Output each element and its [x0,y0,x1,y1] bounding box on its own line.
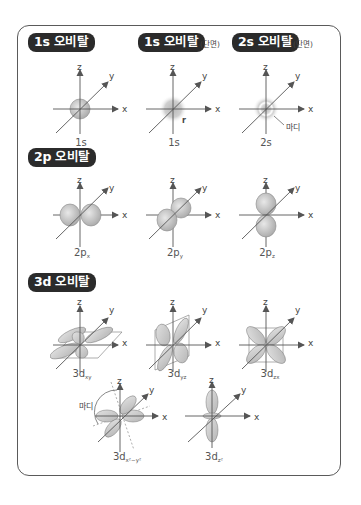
orbital-label-2pz: 2pz [259,247,275,259]
node-label: 마디 [79,400,93,411]
axis-label-x: x [308,104,313,114]
axis-label-y: y [149,385,154,395]
axes-3d-icon [90,378,170,458]
axis-label-y: y [202,305,207,315]
orbital-2pz-diagram [236,175,316,255]
axis-label-z: z [117,376,122,386]
section-tag-2s-cross: 2s 오비탈 [232,33,299,52]
axes-3d-icon [50,62,130,142]
axis-label-z: z [170,297,175,307]
axis-label-y: y [241,385,246,395]
section-tag-3d: 3d 오비탈 [28,273,96,292]
axis-label-z: z [209,375,214,385]
orbital-2px-diagram [50,175,130,255]
axis-label-y: y [202,71,207,81]
orbital-label-2px: 2px [74,247,90,259]
axis-label-z: z [170,62,175,72]
axis-label-y: y [202,183,207,193]
orbital-label-3dx2y2: 3dx²−y² [113,451,141,463]
orbital-2py-diagram [143,175,223,255]
axis-label-x: x [162,412,167,422]
orbital-label-3dz2: 3dz² [205,451,223,463]
orbital-2s-cross-diagram [236,62,316,142]
cross-section-note-2s: (단면) [293,38,313,49]
axis-label-y: y [109,305,114,315]
axis-label-z: z [77,175,82,185]
axes-3d-icon [236,298,316,378]
axis-label-x: x [122,210,127,220]
orbital-1s-diagram [50,62,130,142]
orbital-label-1s-cross: 1s [168,137,180,148]
orbital-3dxy-diagram [50,298,130,378]
axis-label-z: z [263,62,268,72]
axes-3d-icon [236,62,316,142]
axes-3d-icon [50,175,130,255]
axis-label-z: z [263,175,268,185]
cross-section-note-1s: (단면) [200,38,220,49]
orbital-3dx2y2-diagram [90,378,170,458]
orbital-label-3dxy: 3dxy [72,368,91,380]
section-tag-2p: 2p 오비탈 [28,148,96,167]
axis-label-z: z [77,62,82,72]
axis-label-y: y [295,305,300,315]
axis-label-y: y [295,183,300,193]
axis-label-x: x [122,338,127,348]
axis-label-y: y [295,71,300,81]
node-label: 마디 [286,121,300,132]
axis-label-z: z [263,297,268,307]
orbital-label-2s-cross: 2s [260,137,272,148]
axes-3d-icon [143,62,223,142]
orbital-1s-cross-diagram [143,62,223,142]
axis-label-x: x [308,210,313,220]
section-tag-1s: 1s 오비탈 [28,33,95,52]
axis-label-x: x [215,338,220,348]
axis-label-x: x [254,412,259,422]
orbital-label-3dzx: 3dzx [261,368,280,380]
section-tag-1s-cross: 1s 오비탈 [138,33,205,52]
radius-label: r [182,116,186,125]
axes-3d-icon [50,298,130,378]
orbital-label-2py: 2py [167,247,183,259]
axes-3d-icon [236,175,316,255]
orbital-3dz2-diagram [182,378,262,458]
axes-3d-icon [143,298,223,378]
axis-label-z: z [77,297,82,307]
orbital-label-1s: 1s [75,137,87,148]
axis-label-x: x [122,104,127,114]
axis-label-z: z [170,175,175,185]
axis-label-x: x [308,338,313,348]
axis-label-x: x [215,210,220,220]
axes-3d-icon [143,175,223,255]
orbital-3dyz-diagram [143,298,223,378]
orbital-3dzx-diagram [236,298,316,378]
axis-label-y: y [109,71,114,81]
axis-label-x: x [215,104,220,114]
axes-3d-icon [182,378,262,458]
axis-label-y: y [109,183,114,193]
